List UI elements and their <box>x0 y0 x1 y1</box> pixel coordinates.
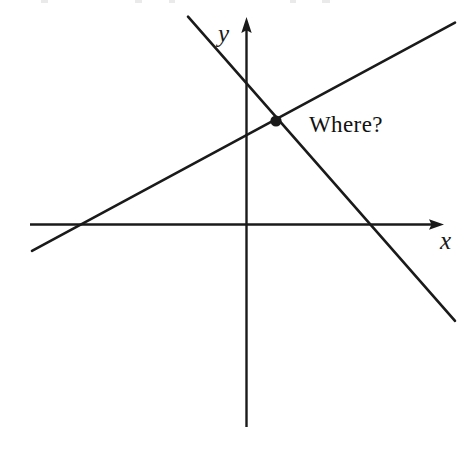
figure-canvas: y x Where? <box>0 0 474 451</box>
y-axis-label: y <box>218 21 229 46</box>
intersection-point-dot <box>270 115 281 126</box>
where-annotation-label: Where? <box>309 113 383 136</box>
coordinate-plane-graphic <box>0 0 474 451</box>
ascending-line <box>32 23 455 251</box>
x-axis-label: x <box>440 228 451 253</box>
descending-line <box>188 17 455 321</box>
